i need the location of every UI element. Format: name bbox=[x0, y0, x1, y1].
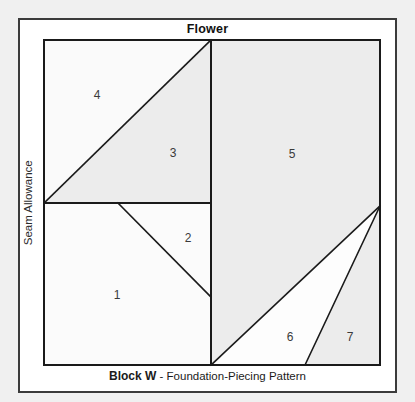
piece-label-5: 5 bbox=[282, 148, 302, 160]
piece-label-1: 1 bbox=[107, 289, 127, 301]
piece-label-7: 7 bbox=[340, 331, 360, 343]
page-title: Flower bbox=[0, 23, 415, 36]
caption-block-name: Block W bbox=[109, 369, 156, 383]
piece-label-4: 4 bbox=[87, 89, 107, 101]
piece-label-2: 2 bbox=[178, 232, 198, 244]
caption-description: - Foundation-Piecing Pattern bbox=[156, 370, 306, 382]
pattern-caption: Block W - Foundation-Piecing Pattern bbox=[0, 370, 415, 383]
piece-label-3: 3 bbox=[163, 147, 183, 159]
seam-allowance-label: Seam Allowance bbox=[23, 143, 35, 263]
pattern-page: Flower Seam Allowance Block W - Foundati… bbox=[0, 0, 415, 402]
piece-label-6: 6 bbox=[280, 331, 300, 343]
